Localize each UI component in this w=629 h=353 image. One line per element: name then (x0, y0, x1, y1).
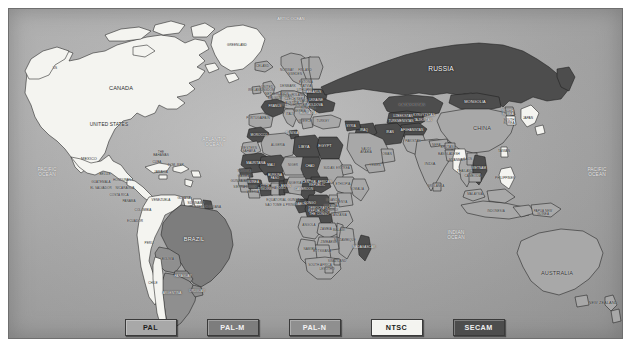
broadcast-standard-legend: PALPAL-MPAL-NNTSCSECAM (8, 315, 621, 339)
world-map-svg: .c{stroke:#1d1d1d;stroke-width:.55;strok… (9, 9, 622, 338)
legend-button-secam[interactable]: SECAM (453, 319, 505, 336)
world-map-panel[interactable]: .c{stroke:#1d1d1d;stroke-width:.55;strok… (8, 8, 623, 339)
legend-button-ntsc[interactable]: NTSC (371, 319, 423, 336)
legend-button-pal-n[interactable]: PAL-N (289, 319, 341, 336)
screenshot-root: .c{stroke:#1d1d1d;stroke-width:.55;strok… (0, 0, 629, 353)
legend-button-pal-m[interactable]: PAL-M (207, 319, 259, 336)
legend-button-pal[interactable]: PAL (125, 319, 177, 336)
